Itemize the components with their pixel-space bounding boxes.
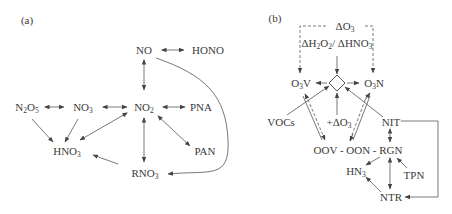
node-vocs: VOCs [267, 116, 295, 128]
edge-no2-hno3 [80, 113, 127, 140]
node-pan: PAN [195, 145, 216, 157]
node-tpn: TPN [404, 169, 425, 181]
panel-a-tag: (a) [21, 14, 33, 26]
node-rno3: RNO3 [132, 167, 159, 179]
node-ntr: NTR [380, 191, 402, 203]
node-no3: NO3 [73, 101, 93, 113]
edge-nit-ntr-elbow [401, 121, 438, 197]
node-pna: PNA [190, 101, 212, 113]
node-delta-o3-top: ΔO3 [334, 20, 357, 32]
edge-do3-o3v-dashed [300, 26, 326, 73]
node-n2o5: N2O5 [15, 101, 38, 113]
panel-b-tag: (b) [269, 12, 282, 24]
edge-no2-pan [158, 116, 190, 146]
node-no2: NO2 [134, 101, 154, 113]
node-plus-delta-o3: +ΔO3 [327, 116, 352, 128]
diamond-node [329, 75, 345, 91]
node-hn3: HN3 [346, 165, 366, 177]
edge-no-rno3-curve [156, 58, 228, 174]
edge-rno3-hno3 [93, 155, 118, 164]
edge-rgn-hn3 [366, 157, 380, 165]
node-oov-oon-rgn: OOV - OON - RGN [313, 144, 402, 156]
node-o3n: O3N [364, 77, 384, 89]
node-o3v: O3V [291, 77, 311, 89]
node-hono: HONO [192, 44, 224, 56]
node-no: NO [136, 44, 152, 56]
edge-tpn-rgn [397, 158, 407, 168]
diagram-edges [0, 0, 452, 214]
node-nit: NIT [382, 116, 400, 128]
edge-n2o5-hno3 [32, 119, 53, 142]
edge-ntr-hn3 [366, 177, 381, 192]
edge-no3-hno3 [65, 119, 78, 142]
node-ratio-h2o2-hno3: ΔH2O2/ ΔHNO3 [302, 37, 373, 49]
node-hno3: HNO3 [53, 145, 81, 157]
